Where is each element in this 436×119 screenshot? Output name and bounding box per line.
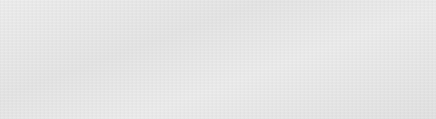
cylinder-top bbox=[362, 34, 406, 49]
flowchart-svg: Validate Transaction (Invokes Check Bala… bbox=[0, 0, 436, 119]
node-pipeline-distributor: Pipeline Distributor E bbox=[246, 36, 301, 91]
document-right-curl bbox=[124, 76, 131, 87]
debit-account-box bbox=[161, 36, 217, 93]
node-account-transaction: Account Transaction bbox=[79, 40, 131, 87]
diagram-canvas: Validate Transaction (Invokes Check Bala… bbox=[0, 0, 436, 119]
node-debit-account: Debit Account bbox=[161, 36, 217, 93]
cylinder-body bbox=[362, 41, 406, 102]
node-validate-transaction: Validate Transaction (Invokes Check Bala… bbox=[26, 39, 83, 95]
